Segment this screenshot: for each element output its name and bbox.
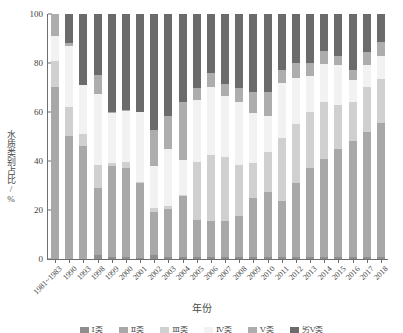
bar-segment[interactable] <box>320 51 328 64</box>
bar-segment[interactable] <box>207 87 215 154</box>
bar-segment[interactable] <box>334 105 342 149</box>
bar-segment[interactable] <box>164 14 172 116</box>
bar-segment[interactable] <box>136 14 144 112</box>
bar-stack[interactable] <box>264 14 272 259</box>
bar-segment[interactable] <box>377 14 385 42</box>
bar-stack[interactable] <box>334 14 342 259</box>
bar-segment[interactable] <box>108 113 116 163</box>
bar-segment[interactable] <box>320 64 328 102</box>
bar-segment[interactable] <box>278 201 286 256</box>
bar-segment[interactable] <box>193 220 201 257</box>
bar-segment[interactable] <box>207 14 215 73</box>
bar-stack[interactable] <box>349 14 357 259</box>
bar-segment[interactable] <box>363 14 371 52</box>
bar-stack[interactable] <box>108 14 116 259</box>
bar-segment[interactable] <box>377 79 385 123</box>
bar-stack[interactable] <box>150 14 158 259</box>
bar-segment[interactable] <box>306 63 314 76</box>
bar-segment[interactable] <box>94 94 102 165</box>
bar-segment[interactable] <box>193 14 201 88</box>
bar-segment[interactable] <box>264 116 272 153</box>
bar-segment[interactable] <box>334 14 342 56</box>
legend-item[interactable]: Ⅰ类 <box>80 326 103 333</box>
bar-stack[interactable] <box>65 14 73 259</box>
bar-stack[interactable] <box>136 14 144 259</box>
bar-segment[interactable] <box>249 163 257 197</box>
bar-stack[interactable] <box>179 14 187 259</box>
bar-segment[interactable] <box>207 73 215 88</box>
bar-segment[interactable] <box>207 221 215 257</box>
bar-segment[interactable] <box>65 107 73 136</box>
bar-segment[interactable] <box>264 14 272 92</box>
bar-segment[interactable] <box>65 46 73 107</box>
bar-stack[interactable] <box>94 14 102 259</box>
bar-segment[interactable] <box>51 61 59 88</box>
bar-segment[interactable] <box>377 56 385 79</box>
bar-segment[interactable] <box>179 196 187 256</box>
bar-segment[interactable] <box>249 92 257 113</box>
legend-item[interactable]: Ⅲ类 <box>160 326 188 333</box>
bar-segment[interactable] <box>51 36 59 61</box>
bar-segment[interactable] <box>235 216 243 256</box>
bar-segment[interactable] <box>164 149 172 207</box>
bar-stack[interactable] <box>221 14 229 259</box>
bar-stack[interactable] <box>164 14 172 259</box>
bar-segment[interactable] <box>193 88 201 100</box>
bar-segment[interactable] <box>249 113 257 163</box>
bar-segment[interactable] <box>349 141 357 256</box>
bar-stack[interactable] <box>377 14 385 259</box>
bar-stack[interactable] <box>235 14 243 259</box>
bar-segment[interactable] <box>235 102 243 164</box>
legend-item[interactable]: Ⅱ类 <box>119 326 144 333</box>
bar-stack[interactable] <box>292 14 300 259</box>
bar-stack[interactable] <box>249 14 257 259</box>
bar-segment[interactable] <box>292 124 300 183</box>
bar-segment[interactable] <box>193 162 201 220</box>
bar-segment[interactable] <box>306 168 314 256</box>
bar-segment[interactable] <box>249 14 257 92</box>
bar-stack[interactable] <box>79 14 87 259</box>
bar-stack[interactable] <box>51 14 59 259</box>
bar-segment[interactable] <box>249 198 257 257</box>
bar-segment[interactable] <box>363 52 371 65</box>
bar-segment[interactable] <box>363 132 371 257</box>
bar-segment[interactable] <box>349 102 357 141</box>
bar-segment[interactable] <box>363 65 371 87</box>
bar-segment[interactable] <box>278 83 286 138</box>
bar-stack[interactable] <box>363 14 371 259</box>
bar-segment[interactable] <box>193 100 201 162</box>
bar-segment[interactable] <box>349 70 357 80</box>
bar-segment[interactable] <box>150 14 158 130</box>
bar-segment[interactable] <box>221 221 229 257</box>
bar-segment[interactable] <box>278 14 286 70</box>
bar-segment[interactable] <box>221 157 229 221</box>
bar-segment[interactable] <box>122 111 130 162</box>
bar-segment[interactable] <box>235 165 243 216</box>
bar-segment[interactable] <box>306 76 314 112</box>
bar-segment[interactable] <box>306 14 314 63</box>
bar-segment[interactable] <box>306 112 314 168</box>
bar-segment[interactable] <box>51 87 59 259</box>
bar-segment[interactable] <box>94 165 102 188</box>
bar-segment[interactable] <box>292 78 300 125</box>
bar-segment[interactable] <box>65 136 73 259</box>
bar-stack[interactable] <box>320 14 328 259</box>
bar-segment[interactable] <box>221 14 229 84</box>
bar-segment[interactable] <box>164 209 172 257</box>
bar-segment[interactable] <box>207 155 215 221</box>
bar-segment[interactable] <box>150 212 158 255</box>
bar-segment[interactable] <box>292 63 300 78</box>
bar-segment[interactable] <box>164 116 172 149</box>
bar-segment[interactable] <box>320 159 328 257</box>
bar-segment[interactable] <box>94 188 102 255</box>
bar-segment[interactable] <box>108 166 116 257</box>
bar-segment[interactable] <box>150 130 158 166</box>
bar-segment[interactable] <box>264 92 272 115</box>
bar-segment[interactable] <box>221 84 229 96</box>
bar-segment[interactable] <box>320 14 328 51</box>
bar-segment[interactable] <box>377 123 385 257</box>
bar-segment[interactable] <box>334 149 342 257</box>
bar-segment[interactable] <box>122 14 130 110</box>
bar-stack[interactable] <box>207 14 215 259</box>
bar-stack[interactable] <box>278 14 286 259</box>
